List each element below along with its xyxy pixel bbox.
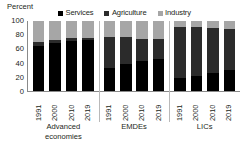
- x-axis-group-labels: AdvancedeconomiesEMDEsLICs: [28, 122, 240, 146]
- y-tick-0: 0: [2, 88, 24, 96]
- segment-industry: [82, 21, 94, 38]
- year-label-group-1: 1991200020102019: [99, 93, 170, 121]
- segment-agriculture: [224, 29, 236, 70]
- stacked-bar-chart: Percent Services Agriculture Industry 10…: [0, 0, 246, 147]
- group-label-lics: LICs: [169, 122, 240, 146]
- segment-industry: [104, 21, 116, 37]
- legend-swatch-industry: [158, 11, 163, 16]
- segment-services: [82, 40, 94, 91]
- x-tick-1991: 1991: [33, 93, 45, 121]
- legend-swatch-services: [58, 11, 63, 16]
- segment-industry: [120, 21, 132, 37]
- chart-legend: Services Agriculture Industry: [58, 7, 246, 19]
- bar-lics-2000[interactable]: [191, 21, 203, 91]
- y-tick-20: 20: [2, 74, 24, 82]
- segment-services: [224, 70, 236, 91]
- x-tick-2000: 2000: [191, 93, 203, 121]
- x-tick-2000: 2000: [120, 93, 132, 121]
- bar-lics-2019[interactable]: [224, 21, 236, 91]
- year-label-group-0: 1991200020102019: [28, 93, 99, 121]
- segment-agriculture: [174, 27, 186, 78]
- group-label-line: LICs: [169, 122, 240, 132]
- segment-services: [136, 61, 148, 91]
- segment-services: [191, 76, 203, 91]
- legend-item-services: Services: [58, 9, 93, 17]
- bar-emdes-2010[interactable]: [136, 21, 148, 91]
- bar-advanced-economies-2010[interactable]: [66, 21, 78, 91]
- x-tick-2010: 2010: [66, 93, 78, 121]
- segment-agriculture: [104, 37, 116, 68]
- x-tick-1991: 1991: [174, 93, 186, 121]
- bar-group-emdes: [99, 21, 170, 91]
- legend-label-agriculture: Agriculture: [112, 9, 147, 17]
- x-tick-2019: 2019: [82, 93, 94, 121]
- group-label-line: EMDEs: [99, 122, 170, 132]
- group-label-line: Advanced: [28, 122, 99, 132]
- segment-services: [174, 78, 186, 91]
- x-tick-2000: 2000: [49, 93, 61, 121]
- segment-industry: [224, 21, 236, 29]
- segment-agriculture: [120, 37, 132, 64]
- bar-advanced-economies-1991[interactable]: [33, 21, 45, 91]
- segment-industry: [66, 21, 78, 38]
- y-tick-60: 60: [2, 45, 24, 53]
- bar-emdes-1991[interactable]: [104, 21, 116, 91]
- y-tick-100: 100: [2, 17, 24, 25]
- segment-industry: [153, 21, 165, 39]
- segment-services: [33, 46, 45, 91]
- segment-agriculture: [191, 27, 203, 76]
- segment-agriculture: [153, 39, 165, 59]
- x-tick-2010: 2010: [136, 93, 148, 121]
- y-tick-40: 40: [2, 60, 24, 68]
- y-axis-label: Percent: [7, 2, 33, 11]
- legend-item-agriculture: Agriculture: [104, 9, 146, 17]
- legend-label-industry: Industry: [165, 9, 191, 17]
- y-axis-ticks: 100806040200: [0, 21, 24, 92]
- y-tick-80: 80: [2, 31, 24, 39]
- group-separator: [169, 21, 170, 122]
- segment-industry: [49, 21, 61, 40]
- bar-group-advanced-economies: [28, 21, 99, 91]
- x-tick-2010: 2010: [207, 93, 219, 121]
- legend-item-industry: Industry: [158, 9, 191, 17]
- bar-advanced-economies-2000[interactable]: [49, 21, 61, 91]
- year-label-group-2: 1991200020102019: [169, 93, 240, 121]
- segment-services: [104, 68, 116, 91]
- segment-services: [49, 43, 61, 91]
- segment-agriculture: [207, 28, 219, 73]
- x-tick-2019: 2019: [153, 93, 165, 121]
- legend-swatch-agriculture: [104, 11, 109, 16]
- bar-advanced-economies-2019[interactable]: [82, 21, 94, 91]
- legend-label-services: Services: [66, 9, 94, 17]
- x-tick-2019: 2019: [224, 93, 236, 121]
- bar-lics-1991[interactable]: [174, 21, 186, 91]
- bar-emdes-2000[interactable]: [120, 21, 132, 91]
- segment-services: [66, 41, 78, 91]
- segment-services: [120, 64, 132, 91]
- x-axis-year-labels: 1991200020102019199120002010201919912000…: [28, 93, 240, 121]
- group-label-emdes: EMDEs: [99, 122, 170, 146]
- bars-area: [28, 21, 240, 91]
- bar-group-lics: [169, 21, 240, 91]
- group-label-line: economies: [28, 132, 99, 142]
- group-separator: [99, 21, 100, 122]
- x-tick-1991: 1991: [104, 93, 116, 121]
- segment-services: [153, 59, 165, 91]
- bar-emdes-2019[interactable]: [153, 21, 165, 91]
- bar-lics-2010[interactable]: [207, 21, 219, 91]
- segment-services: [207, 73, 219, 91]
- x-axis-line: [27, 91, 240, 92]
- segment-industry: [207, 21, 219, 28]
- segment-agriculture: [136, 39, 148, 61]
- segment-industry: [136, 21, 148, 39]
- segment-industry: [33, 21, 45, 42]
- group-label-advanced-economies: Advancedeconomies: [28, 122, 99, 146]
